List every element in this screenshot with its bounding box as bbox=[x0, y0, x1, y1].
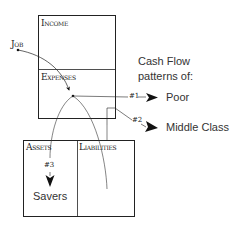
cash-flow-diagram: Income Expenses Assets Liabilities Job C… bbox=[0, 0, 240, 231]
middle-class-flow-line-end bbox=[141, 124, 146, 127]
caption-line-2: patterns of: bbox=[138, 71, 193, 82]
caption-line-1: Cash Flow bbox=[138, 56, 190, 67]
expenses-label: Expenses bbox=[41, 73, 76, 82]
middle-class-step bbox=[107, 108, 115, 125]
income-statement-box bbox=[39, 16, 116, 119]
pattern-2-label: Middle Class bbox=[166, 122, 229, 133]
income-label: Income bbox=[41, 19, 68, 28]
liabilities-label: Liabilities bbox=[79, 143, 116, 152]
pattern-1-label: Poor bbox=[166, 92, 189, 103]
poor-arrowhead bbox=[146, 93, 158, 102]
pattern-2-marker: #2 bbox=[132, 117, 142, 124]
assets-label: Assets bbox=[26, 143, 51, 152]
job-label: Job bbox=[11, 40, 23, 49]
savers-arrowhead bbox=[46, 175, 55, 187]
savers-curve bbox=[50, 96, 73, 158]
pattern-3-marker: #3 bbox=[44, 162, 54, 169]
job-to-expenses-arrow bbox=[18, 50, 69, 90]
middle-class-arrowhead bbox=[145, 121, 158, 132]
poor-flow-line bbox=[73, 96, 128, 97]
pattern-1-marker: #1 bbox=[129, 93, 139, 100]
middle-class-flow-line bbox=[115, 108, 132, 120]
pattern-3-label: Savers bbox=[33, 191, 67, 202]
